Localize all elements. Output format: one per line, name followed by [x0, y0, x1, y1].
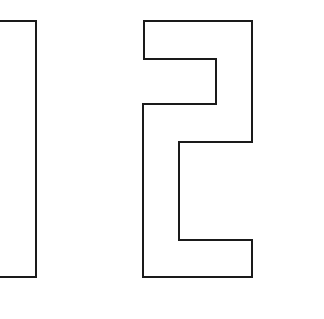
digit-one-outline: [0, 21, 36, 277]
digit-two-outline: [143, 21, 252, 277]
number-outline-drawing: [0, 0, 324, 319]
